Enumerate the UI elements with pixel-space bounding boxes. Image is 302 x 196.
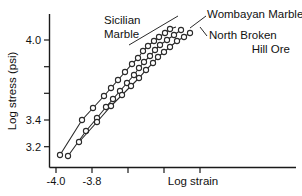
data-point [164, 37, 169, 42]
y-tick-marks [44, 40, 50, 147]
annotation-north-line1: North Broken [209, 29, 277, 41]
leader-line-wombayan [190, 16, 206, 28]
data-point [157, 42, 162, 47]
data-point [141, 59, 146, 64]
data-point [145, 43, 150, 48]
data-point [90, 105, 95, 110]
data-point [147, 53, 152, 58]
x-tick-label--3-8: -3.8 [83, 175, 102, 187]
data-point [128, 83, 133, 88]
annotation-sicilian-line2: Marble [104, 28, 139, 40]
data-point [167, 26, 172, 31]
x-axis-title: Log strain [168, 175, 219, 187]
data-point [101, 93, 106, 98]
x-tick-label--4-0: -4.0 [47, 175, 66, 187]
chart-svg: 4.0 3.4 3.2 -4.0 -3.8 Log strain Log str… [0, 0, 302, 196]
y-tick-label-4-0: 4.0 [26, 34, 41, 46]
series-north-broken-hill-ore [76, 30, 192, 144]
data-point [115, 77, 120, 82]
y-tick-label-3-2: 3.2 [26, 141, 41, 153]
data-point [178, 27, 183, 32]
annotation-sicilian-line1: Sicilian [104, 14, 140, 26]
data-point [110, 96, 115, 101]
data-point [171, 32, 176, 37]
leader-line-north-broken [200, 27, 207, 36]
data-point [156, 34, 161, 39]
data-point [135, 55, 140, 60]
data-point [140, 48, 145, 53]
data-point [150, 60, 155, 65]
data-point [151, 38, 156, 43]
data-point [79, 117, 84, 122]
annotation-wombayan-marble: Wombayan Marble [207, 8, 302, 20]
data-point [181, 34, 186, 39]
annotation-sicilian-marble: Sicilian Marble [104, 14, 140, 40]
x-tick-marks [56, 168, 200, 174]
data-point [136, 75, 141, 80]
chart-figure: 4.0 3.4 3.2 -4.0 -3.8 Log strain Log str… [0, 0, 302, 196]
y-axis-title: Log stress (psi) [6, 52, 18, 131]
data-point [187, 30, 192, 35]
series-north-broken-line [79, 33, 190, 142]
annotation-north-broken-hill-ore: North Broken Hill Ore [209, 29, 290, 55]
series-sicilian-markers [57, 26, 172, 157]
data-point [155, 54, 160, 59]
data-point [131, 72, 136, 77]
data-point [108, 85, 113, 90]
series-north-broken-markers [76, 30, 192, 144]
annotation-north-line2: Hill Ore [252, 43, 290, 55]
data-point [76, 139, 81, 144]
data-point [174, 38, 179, 43]
data-point [161, 49, 166, 54]
data-point [94, 119, 99, 124]
data-point [167, 44, 172, 49]
data-point [129, 61, 134, 66]
data-point [119, 92, 124, 97]
data-point [162, 30, 167, 35]
data-point [152, 47, 157, 52]
data-point [143, 67, 148, 72]
data-point [136, 65, 141, 70]
data-point [108, 103, 113, 108]
data-point [57, 152, 62, 157]
data-point [122, 69, 127, 74]
data-point [65, 153, 70, 158]
y-tick-label-3-4: 3.4 [26, 114, 41, 126]
